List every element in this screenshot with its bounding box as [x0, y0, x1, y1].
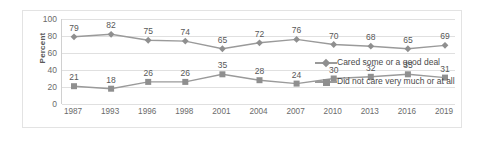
x-tick-label: 2016: [398, 107, 416, 117]
legend-item-series-2[interactable]: Did not care very much or at all: [315, 74, 465, 89]
data-point-label: 74: [181, 28, 190, 37]
y-tick-label: 20: [33, 83, 57, 91]
data-point-marker: [145, 79, 151, 85]
diamond-marker-icon: [315, 57, 337, 68]
data-point-marker: [256, 39, 263, 46]
data-point-marker: [71, 83, 77, 89]
data-point-marker: [219, 71, 225, 77]
data-point-label: 72: [255, 30, 264, 39]
x-tick-label: 2001: [212, 107, 230, 117]
chart-legend: Cared some or a good deal Did not care v…: [315, 55, 465, 93]
data-point-marker: [182, 38, 189, 45]
data-point-label: 28: [255, 67, 264, 76]
x-tick-label: 1998: [175, 107, 193, 117]
x-tick-label: 1993: [101, 107, 119, 117]
y-tick-label: 60: [33, 49, 57, 57]
chart-frame: Percent 100806040200 7982757465727670686…: [22, 10, 462, 128]
x-axis-tick-labels: 1987199319961998200120042007201020132016…: [61, 107, 455, 121]
data-point-label: 70: [329, 32, 338, 41]
square-marker-icon: [315, 76, 337, 87]
data-point-label: 65: [403, 36, 412, 45]
data-point-label: 65: [218, 36, 227, 45]
legend-label-series-2: Did not care very much or at all: [337, 76, 455, 87]
data-point-marker: [293, 36, 300, 43]
data-point-marker: [182, 79, 188, 85]
y-tick-label: 0: [33, 100, 57, 108]
data-point-label: 68: [366, 33, 375, 42]
data-point-marker: [367, 43, 374, 50]
data-point-label: 76: [292, 26, 301, 35]
data-point-marker: [330, 41, 337, 48]
data-point-label: 21: [69, 73, 78, 82]
data-point-label: 26: [143, 69, 152, 78]
data-point-marker: [294, 81, 300, 87]
y-axis-tick-labels: 100806040200: [31, 11, 57, 129]
x-tick-label: 1987: [64, 107, 82, 117]
legend-item-series-1[interactable]: Cared some or a good deal: [315, 55, 465, 70]
data-point-label: 35: [218, 61, 227, 70]
data-point-label: 82: [106, 21, 115, 30]
data-point-marker: [405, 45, 412, 52]
data-point-marker: [108, 86, 114, 92]
data-point-marker: [442, 42, 449, 49]
data-point-label: 18: [106, 76, 115, 85]
data-point-marker: [219, 45, 226, 52]
x-tick-label: 2010: [324, 107, 342, 117]
data-point-label: 24: [292, 71, 301, 80]
legend-label-series-1: Cared some or a good deal: [337, 57, 440, 68]
x-tick-label: 2013: [361, 107, 379, 117]
x-tick-label: 2007: [286, 107, 304, 117]
y-tick-label: 100: [33, 15, 57, 23]
data-point-label: 69: [440, 32, 449, 41]
y-tick-label: 80: [33, 32, 57, 40]
data-point-marker: [145, 37, 152, 44]
x-tick-label: 1996: [138, 107, 156, 117]
data-point-label: 26: [181, 69, 190, 78]
data-point-marker: [257, 77, 263, 83]
gridline: [62, 104, 455, 105]
data-point-marker: [108, 31, 115, 38]
data-point-label: 75: [143, 27, 152, 36]
y-tick-label: 40: [33, 66, 57, 74]
data-point-marker: [71, 33, 78, 40]
data-point-label: 79: [69, 24, 78, 33]
x-tick-label: 2004: [249, 107, 267, 117]
x-tick-label: 2019: [435, 107, 453, 117]
